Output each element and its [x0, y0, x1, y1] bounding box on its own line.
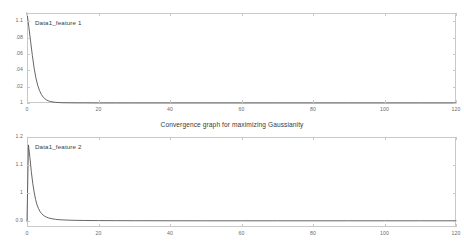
x-tick-label: 80: [310, 231, 316, 236]
y-tick-mark: [27, 38, 30, 39]
curve-feature-2: [27, 137, 456, 227]
x-tick-mark: [242, 13, 243, 16]
y-tick-label: 1.1: [15, 19, 23, 24]
x-tick-mark: [385, 13, 386, 16]
y-tick-label: 1.2: [15, 134, 23, 139]
y-tick-mark: [27, 70, 30, 71]
x-tick-mark: [27, 137, 28, 140]
y-tick-mark: [453, 87, 456, 88]
y-tick-mark: [453, 70, 456, 71]
x-tick-label: 60: [239, 107, 245, 112]
y-tick-mark: [453, 193, 456, 194]
x-tick-mark: [99, 100, 100, 103]
x-tick-mark: [385, 224, 386, 227]
x-tick-mark: [242, 137, 243, 140]
x-tick-mark: [27, 100, 28, 103]
y-tick-mark: [27, 221, 30, 222]
x-tick-mark: [242, 224, 243, 227]
y-tick-label: .04: [15, 68, 23, 73]
x-tick-mark: [170, 13, 171, 16]
y-tick-mark: [453, 54, 456, 55]
y-tick-mark: [27, 193, 30, 194]
x-tick-label: 0: [26, 107, 29, 112]
x-tick-mark: [27, 224, 28, 227]
x-tick-mark: [456, 13, 457, 16]
x-tick-mark: [170, 224, 171, 227]
x-tick-label: 80: [310, 107, 316, 112]
y-tick-label: 1.1: [15, 163, 23, 168]
y-tick-mark: [27, 165, 30, 166]
x-tick-mark: [27, 13, 28, 16]
x-tick-mark: [99, 224, 100, 227]
x-tick-mark: [242, 100, 243, 103]
x-tick-label: 100: [380, 231, 389, 236]
x-tick-label: 40: [167, 231, 173, 236]
x-tick-label: 120: [452, 107, 461, 112]
y-tick-mark: [453, 38, 456, 39]
curve-feature-1: [27, 13, 456, 103]
x-tick-mark: [170, 100, 171, 103]
x-tick-mark: [385, 137, 386, 140]
y-tick-mark: [27, 103, 30, 104]
x-tick-label: 20: [96, 107, 102, 112]
chart-feature-2[interactable]: Data1_feature 2 0.911.11.2 0204060801001…: [27, 137, 456, 227]
x-tick-mark: [170, 137, 171, 140]
x-tick-mark: [99, 137, 100, 140]
x-tick-mark: [313, 13, 314, 16]
x-tick-mark: [456, 100, 457, 103]
chart-feature-1[interactable]: Data1_feature 1 1.02.04.06.081.1 0204060…: [27, 13, 456, 103]
x-tick-label: 20: [96, 231, 102, 236]
y-tick-mark: [27, 54, 30, 55]
y-tick-mark: [27, 21, 30, 22]
x-tick-mark: [99, 13, 100, 16]
y-tick-mark: [453, 21, 456, 22]
y-tick-mark: [27, 87, 30, 88]
y-tick-label: .06: [15, 51, 23, 56]
x-tick-label: 0: [26, 231, 29, 236]
figure-canvas: Data1_feature 1 1.02.04.06.081.1 0204060…: [0, 0, 464, 251]
x-tick-label: 100: [380, 107, 389, 112]
y-tick-label: 1: [20, 191, 23, 196]
y-tick-mark: [453, 221, 456, 222]
y-tick-label: 0.9: [15, 219, 23, 224]
x-tick-mark: [385, 100, 386, 103]
series-label-feature-2: Data1_feature 2: [35, 144, 82, 150]
y-tick-label: .08: [15, 35, 23, 40]
x-tick-mark: [313, 100, 314, 103]
y-tick-label: 1: [20, 100, 23, 105]
x-tick-label: 60: [239, 231, 245, 236]
x-tick-mark: [313, 224, 314, 227]
x-tick-label: 120: [452, 231, 461, 236]
y-tick-mark: [453, 103, 456, 104]
x-tick-mark: [313, 137, 314, 140]
x-tick-label: 40: [167, 107, 173, 112]
figure-caption: Convergence graph for maximizing Gaussia…: [0, 122, 464, 129]
y-tick-mark: [453, 165, 456, 166]
series-label-feature-1: Data1_feature 1: [35, 20, 82, 26]
x-tick-mark: [456, 137, 457, 140]
y-tick-label: .02: [15, 84, 23, 89]
x-tick-mark: [456, 224, 457, 227]
